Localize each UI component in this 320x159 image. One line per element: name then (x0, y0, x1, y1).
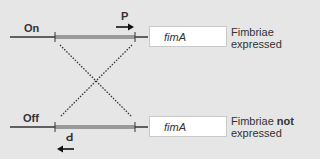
promoter-label-on: P (121, 10, 128, 22)
promoter-label-off: P (66, 131, 73, 143)
off-outcome-line2: expressed (231, 127, 282, 139)
off-gene-box: fimA (149, 116, 227, 137)
on-outcome-line1: Fimbriae (231, 26, 274, 38)
on-gene-box: fimA (149, 26, 227, 47)
off-outcome-bold: not (277, 115, 294, 127)
on-outcome-text: Fimbriae expressed (231, 26, 282, 50)
on-state-label: On (24, 22, 39, 34)
on-outcome-line2: expressed (231, 38, 282, 50)
off-outcome-line1: Fimbriae (231, 115, 277, 127)
on-invertible-segment (55, 35, 135, 39)
off-invertible-segment (55, 125, 135, 129)
arrow-left-icon (57, 146, 63, 153)
off-outcome-text: Fimbriae not expressed (231, 115, 294, 139)
off-state-label: Off (23, 112, 39, 124)
arrow-right-icon (128, 24, 134, 31)
